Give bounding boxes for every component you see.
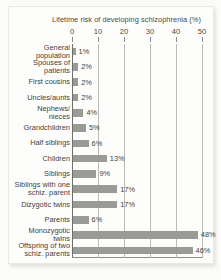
gridline [176, 44, 177, 258]
x-axis-tick-label: 20 [120, 27, 128, 36]
y-axis-category-label: Spouses of patients [2, 59, 70, 75]
bar [73, 94, 78, 102]
bar-value-label: 9% [99, 170, 110, 177]
chart-figure: Lifetime risk of developing schizophreni… [0, 0, 221, 280]
x-axis-tick-label: 0 [70, 27, 74, 36]
bar [73, 78, 78, 86]
y-axis-category-labels: General populationSpouses of patientsFir… [0, 44, 70, 258]
y-axis-category-label: Uncles/aunts [2, 94, 70, 102]
bar-value-label: 4% [86, 109, 97, 116]
bar [73, 216, 89, 224]
bar [73, 247, 193, 255]
y-axis-category-label: Parents [2, 216, 70, 224]
y-axis-category-label: Siblings [2, 170, 70, 178]
bar-value-label: 6% [92, 216, 103, 223]
y-axis-category-label: First cousins [2, 78, 70, 86]
bar-value-label: 2% [81, 79, 92, 86]
x-axis-tick-labels: 01020304050 [0, 27, 221, 38]
gridline [202, 44, 203, 258]
bar-value-label: 46% [196, 247, 211, 254]
y-axis-category-label: Half siblings [2, 139, 70, 147]
bar [73, 124, 86, 132]
x-axis-tick-mark [202, 37, 203, 42]
bar-value-label: 1% [79, 48, 90, 55]
x-axis-tick-label: 50 [198, 27, 206, 36]
x-axis-tick-mark [150, 37, 151, 42]
gridline [124, 44, 125, 258]
x-axis-tick-mark [72, 37, 73, 42]
y-axis-category-label: Nephews/ nieces [2, 105, 70, 121]
bar [73, 231, 198, 239]
bar [73, 201, 117, 209]
bar-value-label: 48% [201, 231, 216, 238]
y-axis-category-label: Siblings with one schiz. parent [2, 181, 70, 197]
bar-value-label: 2% [81, 94, 92, 101]
bar-value-label: 13% [110, 155, 125, 162]
chart-title: Lifetime risk of developing schizophreni… [52, 15, 218, 24]
x-axis-tick-mark [98, 37, 99, 42]
bar-value-label: 5% [89, 124, 100, 131]
x-axis-tick-mark [124, 37, 125, 42]
y-axis-category-label: Offspring of two schiz. parents [2, 242, 70, 258]
bar [73, 155, 107, 163]
bar [73, 63, 78, 71]
bar-value-label: 17% [120, 201, 135, 208]
x-axis-baseline [72, 257, 202, 258]
bar [73, 170, 96, 178]
bar-value-label: 2% [81, 63, 92, 70]
bar [73, 109, 83, 117]
gridline [98, 44, 99, 258]
x-axis-tick-label: 10 [94, 27, 102, 36]
plot-area: 1%2%2%2%4%5%6%13%9%17%17%6%48%46% [72, 44, 202, 258]
x-axis-tick-mark [176, 37, 177, 42]
y-axis-line [72, 44, 73, 258]
bar-value-label: 17% [120, 186, 135, 193]
gridline [150, 44, 151, 258]
y-axis-category-label: Children [2, 155, 70, 163]
bar [73, 48, 76, 56]
bar-value-label: 6% [92, 140, 103, 147]
x-axis-tick-label: 30 [146, 27, 154, 36]
y-axis-category-label: Grandchildren [2, 124, 70, 132]
y-axis-category-label: Dizygotic twins [2, 201, 70, 209]
x-axis-tick-label: 40 [172, 27, 180, 36]
bar [73, 185, 117, 193]
bar [73, 140, 89, 148]
